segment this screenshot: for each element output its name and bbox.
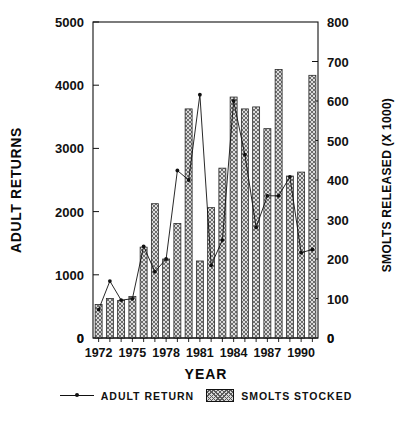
line-point (310, 248, 314, 252)
line-point (142, 244, 146, 248)
bar (140, 247, 147, 338)
line-point (108, 279, 112, 283)
bar (286, 176, 293, 338)
y-tick-left: 1000 (55, 268, 84, 283)
x-tick-label: 1987 (253, 346, 281, 360)
y-tick-right: 500 (327, 134, 349, 149)
x-tick-label: 1975 (118, 346, 146, 360)
legend-item-smolts-stocked: SMOLTS STOCKED (206, 389, 352, 402)
y-tick-right: 800 (327, 15, 349, 30)
bar (253, 107, 260, 338)
legend-item-adult-return: ADULT RETURN (60, 390, 194, 402)
zero-label-right: 0 (327, 331, 334, 346)
line-point (175, 169, 179, 173)
line-point (265, 194, 269, 198)
line-point (220, 238, 224, 242)
x-tick-label: 1990 (287, 346, 315, 360)
y-tick-right: 100 (327, 292, 349, 307)
bar (196, 261, 203, 338)
plot-area: 0100020003000400050000100200300400500600… (0, 0, 412, 421)
line-point (232, 99, 236, 103)
x-tick-label: 1972 (85, 346, 113, 360)
bar (129, 297, 136, 338)
bar (298, 172, 305, 338)
y-tick-left: 4000 (55, 78, 84, 93)
x-tick-label: 1984 (220, 346, 248, 360)
bar (275, 69, 282, 338)
y-tick-left: 3000 (55, 141, 84, 156)
line-point (243, 153, 247, 157)
line-marker-icon (60, 391, 94, 401)
zero-label-left: 0 (77, 331, 84, 346)
line-point (130, 297, 134, 301)
bar (163, 259, 170, 338)
bar-swatch-icon (206, 389, 234, 402)
y-tick-right: 300 (327, 213, 349, 228)
chart-figure: ADULT RETURNS SMOLTS RELEASED (X 1000) 0… (0, 0, 412, 421)
x-axis-title: YEAR (0, 366, 412, 382)
x-tick-label: 1981 (186, 346, 214, 360)
bar (185, 109, 192, 338)
line-point (119, 298, 123, 302)
line-point (277, 194, 281, 198)
y-tick-left: 2000 (55, 205, 84, 220)
line-point (254, 226, 258, 230)
y-tick-right: 200 (327, 252, 349, 267)
legend-label-adult-return: ADULT RETURN (101, 390, 194, 402)
bar (219, 168, 226, 338)
line-point (164, 257, 168, 261)
x-tick-label: 1978 (152, 346, 180, 360)
line-point (153, 270, 157, 274)
y-tick-right: 600 (327, 94, 349, 109)
line-point (288, 175, 292, 179)
bar (309, 75, 316, 338)
line-point (209, 263, 213, 267)
line-point (198, 93, 202, 97)
y-tick-left: 5000 (55, 15, 84, 30)
line-point (299, 251, 303, 255)
chart-legend: ADULT RETURN SMOLTS STOCKED (0, 389, 412, 402)
line-point (187, 178, 191, 182)
bar (106, 299, 113, 339)
y-tick-right: 400 (327, 173, 349, 188)
y-tick-right: 700 (327, 55, 349, 70)
bar (264, 129, 271, 338)
bar (118, 300, 125, 338)
line-point (97, 308, 101, 312)
bar (174, 223, 181, 338)
legend-label-smolts-stocked: SMOLTS STOCKED (241, 390, 352, 402)
